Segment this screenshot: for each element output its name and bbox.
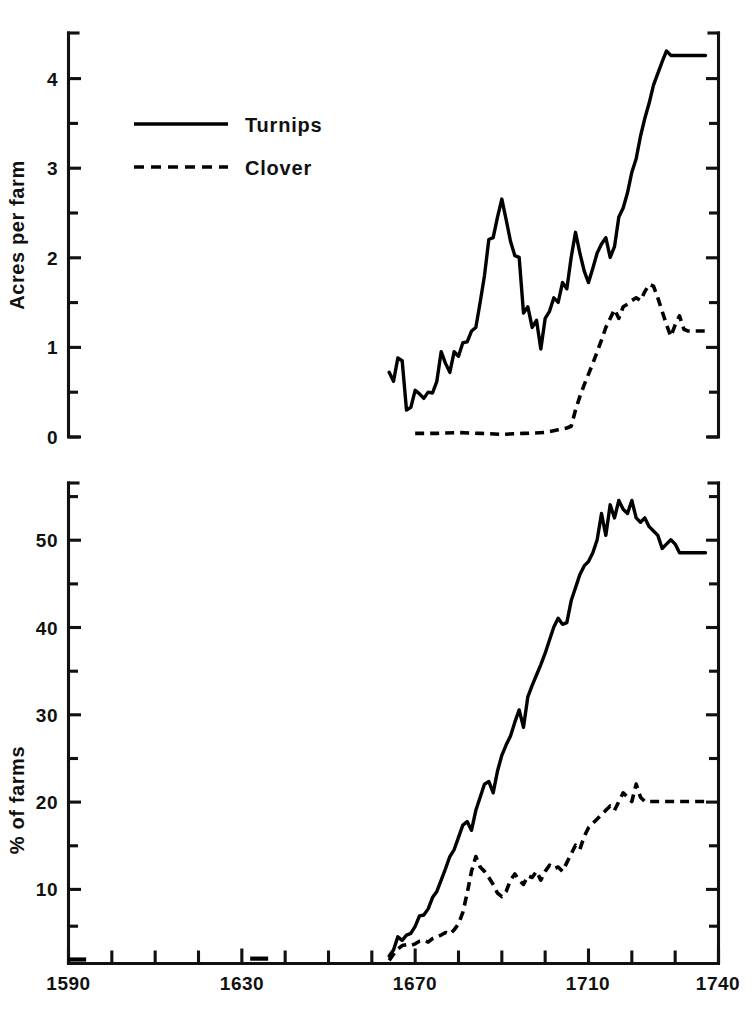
acres-ytick-label-1: 1: [47, 337, 58, 358]
xtick-label-1670: 1670: [393, 973, 437, 994]
percent-ytick-label-30: 30: [36, 705, 58, 726]
xtick-label-1710: 1710: [566, 973, 610, 994]
xtick-label-1590: 1590: [46, 973, 90, 994]
legend-label-clover: Clover: [245, 157, 312, 179]
acres-axis-title: Acres per farm: [6, 160, 28, 310]
two-panel-line-chart: 0 1 2 3 4 Acres per farm Turnips Clover: [0, 0, 755, 1012]
percent-ytick-label-40: 40: [36, 618, 58, 639]
percent-ytick-label-50: 50: [36, 530, 58, 551]
percent-ytick-label-10: 10: [36, 879, 58, 900]
xtick-label-1740: 1740: [696, 973, 740, 994]
acres-ytick-label-0: 0: [47, 427, 58, 448]
figure-background: [0, 0, 755, 1012]
acres-ytick-label-4: 4: [47, 69, 58, 90]
percent-ytick-label-20: 20: [36, 792, 58, 813]
percent-axis-title: % of farms: [6, 746, 28, 854]
chart-figure: 0 1 2 3 4 Acres per farm Turnips Clover: [0, 0, 755, 1012]
legend-label-turnips: Turnips: [245, 114, 322, 136]
xtick-label-1630: 1630: [220, 973, 264, 994]
acres-ytick-label-2: 2: [47, 248, 58, 269]
acres-ytick-label-3: 3: [47, 158, 58, 179]
